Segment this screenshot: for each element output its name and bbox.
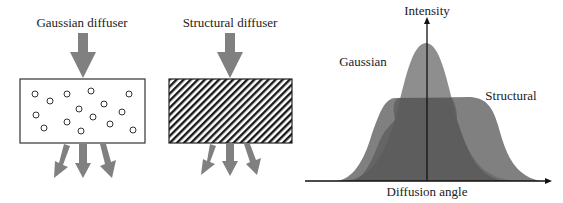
structural-diffuser-title: Structural diffuser [183, 15, 278, 30]
gaussian-series-label: Gaussian [339, 54, 387, 69]
structural-diffuser-box [169, 79, 292, 143]
y-axis-label: Intensity [404, 3, 450, 18]
gaussian-diffuser-title: Gaussian diffuser [36, 15, 128, 30]
structural-series-label: Structural [485, 88, 537, 103]
structured-output-arrows-icon [201, 144, 261, 176]
x-axis-label: Diffusion angle [387, 184, 468, 199]
x-axis-arrow-icon [545, 178, 552, 184]
incident-arrow-icon [70, 33, 96, 78]
gaussian-diffuser-panel: Gaussian diffuser [20, 15, 145, 178]
structural-diffuser-panel: Structural diffuser [169, 15, 292, 176]
diffuser-diagram: Gaussian diffuser [0, 0, 563, 203]
y-axis-arrow-icon [424, 17, 430, 24]
incident-arrow-icon [217, 33, 243, 78]
intensity-chart: Intensity Diffusion angle Gaussian Struc… [305, 3, 552, 199]
scattered-output-arrows-icon [54, 144, 116, 178]
